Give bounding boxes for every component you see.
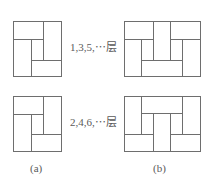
brick-layout-diagram bbox=[0, 0, 215, 184]
panel-b-odd-layers bbox=[125, 22, 201, 77]
panel-a-caption: (a) bbox=[30, 163, 42, 174]
panel-a-odd-layers bbox=[14, 22, 62, 77]
even-layers-label: 2,4,6,⋯层 bbox=[70, 117, 117, 128]
panel-b-even-layers bbox=[125, 97, 201, 152]
odd-layers-label: 1,3,5,⋯层 bbox=[70, 42, 117, 53]
panel-a-even-layers bbox=[14, 97, 62, 152]
panel-b-caption: (b) bbox=[153, 163, 166, 174]
